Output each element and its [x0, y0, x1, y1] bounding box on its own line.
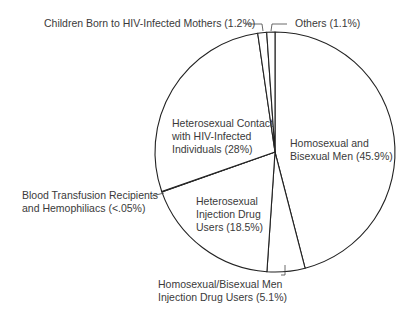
label-homosexual-bisexual-men: Homosexual and Bisexual Men (45.9%): [290, 137, 393, 163]
label-others: Others (1.1%): [295, 17, 360, 30]
label-blood-transfusion: Blood Transfusion Recipients and Hemophi…: [22, 189, 158, 215]
label-children: Children Born to HIV-Infected Mothers (1…: [44, 17, 255, 30]
label-msm-idu: Homosexual/Bisexual Men Injection Drug U…: [158, 278, 287, 304]
label-heterosexual-idu: Heterosexual Injection Drug Users (18.5%…: [196, 195, 263, 234]
label-heterosexual-contact: Heterosexual Contact with HIV-Infected I…: [172, 117, 273, 156]
leader-others: [271, 24, 287, 31]
